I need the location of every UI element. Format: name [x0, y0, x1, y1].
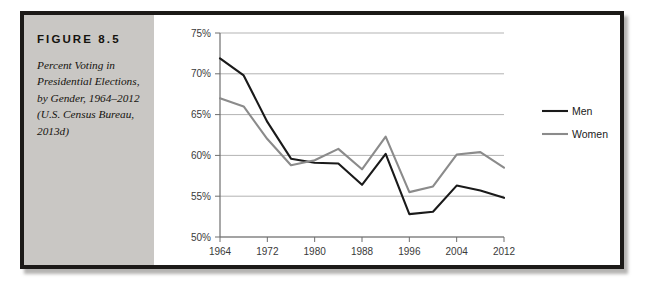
legend-label-women: Women — [572, 128, 608, 140]
line-chart: 50%55%60%65%70%75% 196419721980198819962… — [154, 15, 620, 265]
x-tick-label: 2004 — [446, 246, 469, 257]
x-tick-label: 1972 — [256, 246, 279, 257]
x-tick-label: 1996 — [398, 246, 421, 257]
x-tick-label: 1980 — [304, 246, 327, 257]
y-tick-label: 50% — [191, 232, 211, 243]
y-axis: 50%55%60%65%70%75% — [191, 28, 220, 243]
chart-legend: MenWomen — [542, 105, 608, 140]
y-tick-label: 75% — [191, 28, 211, 39]
figure-box: FIGURE 8.5 Percent Voting in Presidentia… — [20, 11, 624, 269]
x-tick-label: 1964 — [209, 246, 232, 257]
legend-label-men: Men — [572, 105, 593, 117]
y-tick-label: 55% — [191, 191, 211, 202]
y-tick-label: 60% — [191, 150, 211, 161]
figure-label: FIGURE 8.5 — [37, 33, 143, 45]
x-tick-label: 2012 — [493, 246, 516, 257]
series-line-men — [220, 58, 504, 214]
figure-caption: Percent Voting in Presidential Elections… — [37, 57, 143, 139]
y-tick-label: 70% — [191, 68, 211, 79]
gridlines — [220, 33, 504, 237]
caption-panel: FIGURE 8.5 Percent Voting in Presidentia… — [24, 15, 154, 265]
figure-root: FIGURE 8.5 Percent Voting in Presidentia… — [0, 0, 645, 300]
x-axis: 1964197219801988199620042012 — [209, 237, 516, 257]
chart-area: 50%55%60%65%70%75% 196419721980198819962… — [154, 15, 620, 265]
data-series — [220, 58, 504, 214]
y-tick-label: 65% — [191, 109, 211, 120]
x-tick-label: 1988 — [351, 246, 374, 257]
